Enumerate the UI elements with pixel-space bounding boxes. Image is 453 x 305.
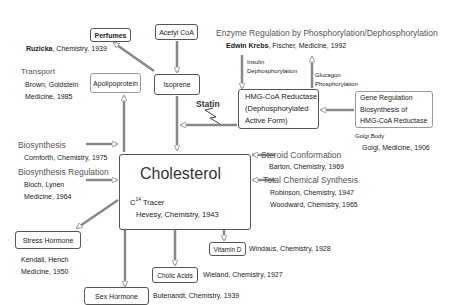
steroid-award: Barton, Chemistry, 1969	[269, 163, 344, 170]
statin-label: Statin	[196, 100, 220, 109]
node-label: Gene Regulation	[360, 92, 413, 104]
node-label: Biosynthesis of	[360, 104, 407, 116]
tracer-text: Tracer	[141, 198, 164, 207]
biosynthesis-award: Cornforth, Chemistry, 1975	[24, 154, 108, 161]
node-label: HMG-CoA Reductase	[245, 91, 317, 103]
node-gene-regulation: Gene Regulation Biosynthesis of HMG-CoA …	[355, 91, 433, 128]
enzyme-regulation-heading: Enzyme Regulation by Phosphorylation/Dep…	[216, 29, 438, 38]
cholic-acids-award: Wieland, Chemistry, 1927	[203, 271, 283, 278]
bio-regulation-award-1: Bloch, Lynen	[24, 181, 64, 188]
node-acetyl-coa: Acetyl CoA	[155, 24, 198, 40]
sex-hormone-award: Butenandt, Chemistry, 1939	[153, 292, 239, 299]
node-label: Isoprene	[163, 81, 190, 88]
steroid-conformation-heading: Steroid Conformation	[261, 151, 341, 160]
arrow-isoprene-to-perfumes	[114, 43, 154, 71]
biosynthesis-heading: Biosynthesis	[18, 141, 66, 150]
node-isoprene: Isoprene	[154, 74, 200, 95]
node-label: Active Form)	[245, 115, 288, 127]
biosynthesis-regulation-heading: Biosynthesis Regulation	[18, 168, 109, 177]
insulin-label: Insulin	[247, 59, 264, 65]
laureate-name: Edwin Krebs	[226, 42, 268, 49]
cholesterol-title: Cholesterol	[140, 165, 221, 183]
award-text: , Chemistry, 1939	[52, 45, 106, 52]
node-stress-hormone: Stress Hormone	[15, 231, 81, 249]
total-synthesis-award-2: Woodward, Chemistry, 1965	[270, 201, 358, 208]
node-label: Acetyl CoA	[159, 29, 194, 36]
statin-bolt-icon	[205, 108, 220, 124]
node-label: Vitamin D	[213, 246, 241, 253]
glucagon-effect: Phosphorylation	[315, 81, 358, 87]
tracer-label: C14 Tracer	[130, 196, 164, 207]
transport-award-1: Brown, Goldstein	[25, 81, 78, 88]
total-synthesis-award-1: Robinson, Chemistry, 1947	[270, 189, 354, 196]
golgi-award: Golgi, Medicine, 1906	[362, 144, 430, 151]
node-perfumes: Perfumes	[90, 28, 131, 42]
node-cholic-acids: Cholic Acids	[152, 267, 198, 283]
total-synthesis-heading: Total Chemical Synthesis	[263, 176, 358, 185]
bio-regulation-award-2: Medicine, 1964	[24, 193, 71, 200]
arrow-to-stress-hormone	[77, 200, 118, 228]
enzyme-award: Edwin Krebs, Fischer, Medicine, 1992	[226, 42, 346, 49]
node-hmg-coa-reductase: HMG-CoA Reductase (Dephosphorylated Acti…	[238, 89, 319, 129]
golgi-body-label: Golgi Body	[355, 133, 384, 139]
insulin-effect: Dephosphorylation	[247, 68, 297, 74]
stress-hormone-award-2: Medicine, 1950	[21, 268, 68, 275]
transport-heading: Transport	[21, 68, 55, 76]
ruzicka-label: Ruzicka, Chemistry, 1939	[26, 45, 107, 52]
node-cholesterol: Cholesterol C14 Tracer Hevesy, Chemistry…	[119, 154, 251, 230]
node-apolipoprotein: Apolipoprotein	[90, 73, 141, 93]
node-sex-hormone: Sex Hormone	[84, 287, 149, 305]
glucagon-label: Glucagon	[315, 72, 341, 78]
award-text: , Fischer, Medicine, 1992	[268, 42, 346, 49]
node-label: Cholic Acids	[157, 272, 192, 279]
tracer-award: Hevesy, Chemistry, 1943	[136, 210, 219, 219]
node-vitamin-d: Vitamin D	[209, 242, 246, 256]
node-label: Perfumes	[95, 32, 127, 39]
laureate-name: Ruzicka	[26, 45, 52, 52]
node-label: Sex Hormone	[95, 293, 138, 300]
node-label: Stress Hormone	[23, 237, 74, 244]
node-label: (Dephosphorylated	[245, 103, 308, 115]
vitamin-d-award: Windaus, Chemistry, 1928	[249, 245, 331, 252]
node-label: HMG-CoA Reductase	[360, 115, 427, 127]
transport-award-2: Medicine, 1985	[25, 93, 72, 100]
node-label: Apolipoprotein	[93, 80, 138, 87]
stress-hormone-award-1: Kendall, Hench	[21, 256, 68, 263]
